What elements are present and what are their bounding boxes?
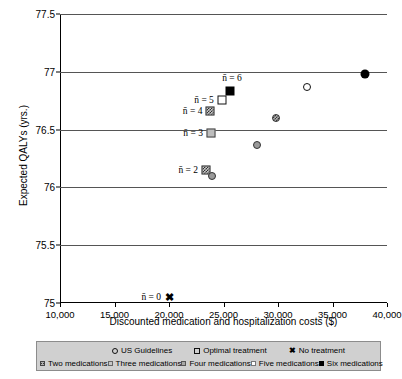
y-tick-label: 77 bbox=[44, 66, 55, 77]
y-tick-mark bbox=[56, 71, 60, 72]
data-point-optimal-top bbox=[361, 70, 370, 79]
legend-label: Two medications bbox=[48, 359, 108, 368]
x-tick-mark bbox=[387, 303, 388, 307]
chart-legend: US GuidelinesOptimal treatment✖No treatm… bbox=[36, 341, 381, 371]
data-point-guideline-mid bbox=[253, 141, 261, 149]
legend-label: Six medications bbox=[327, 359, 383, 368]
data-point-guideline-open bbox=[303, 83, 311, 91]
gridline-y bbox=[60, 245, 387, 246]
square-midgray-icon bbox=[181, 361, 186, 366]
y-tick-mark bbox=[56, 129, 60, 130]
point-annotation: n̄ = 5 bbox=[194, 95, 214, 105]
point-annotation: n̄ = 6 bbox=[222, 73, 242, 83]
legend-row-primary: US GuidelinesOptimal treatment✖No treatm… bbox=[37, 344, 380, 357]
data-point-n-bar-4 bbox=[206, 107, 215, 116]
y-axis-line bbox=[60, 14, 61, 303]
x-axis-title: Discounted medication and hospitalizatio… bbox=[60, 316, 387, 327]
point-annotation: n̄ = 4 bbox=[183, 106, 203, 116]
square-lightgray-icon bbox=[108, 361, 113, 366]
cross-icon: ✖ bbox=[289, 347, 296, 355]
legend-item-four-medications[interactable]: Four medications bbox=[181, 359, 250, 368]
point-annotation: n̄ = 3 bbox=[183, 128, 203, 138]
gridline-y bbox=[60, 187, 387, 188]
x-tick-mark bbox=[224, 303, 225, 307]
x-tick-mark bbox=[60, 303, 61, 307]
legend-item-six-medications[interactable]: Six medications bbox=[319, 359, 383, 368]
x-tick-mark bbox=[278, 303, 279, 307]
legend-label: Three medications bbox=[116, 359, 182, 368]
circle-open-icon bbox=[112, 348, 118, 354]
y-tick-label: 76 bbox=[44, 182, 55, 193]
data-point-n-bar-5 bbox=[217, 95, 226, 104]
gridline-y bbox=[60, 14, 387, 15]
data-point-guideline-low bbox=[208, 172, 216, 180]
square-black-icon bbox=[319, 361, 324, 366]
legend-item-us-guidelines[interactable]: US Guidelines bbox=[112, 346, 172, 355]
legend-item-two-medications[interactable]: Two medications bbox=[40, 359, 108, 368]
legend-item-optimal-treatment[interactable]: Optimal treatment bbox=[194, 346, 267, 355]
square-open-icon bbox=[194, 348, 200, 354]
legend-label: Optimal treatment bbox=[203, 346, 267, 355]
data-point-guideline-hatch bbox=[272, 114, 280, 122]
legend-label: Five medications bbox=[259, 359, 319, 368]
y-tick-mark bbox=[56, 187, 60, 188]
square-hatch-icon bbox=[40, 361, 45, 366]
legend-label: No treatment bbox=[299, 346, 345, 355]
y-tick-label: 77.5 bbox=[36, 9, 55, 20]
legend-label: US Guidelines bbox=[121, 346, 172, 355]
x-tick-mark bbox=[115, 303, 116, 307]
point-annotation: n̄ = 0 bbox=[141, 292, 161, 302]
y-tick-label: 75 bbox=[44, 298, 55, 309]
legend-item-no-treatment[interactable]: ✖No treatment bbox=[289, 346, 345, 355]
legend-item-three-medications[interactable]: Three medications bbox=[108, 359, 182, 368]
data-point-n-bar-3 bbox=[206, 129, 215, 138]
data-point-n-bar-6 bbox=[226, 87, 235, 96]
point-annotation: n̄ = 2 bbox=[178, 165, 198, 175]
y-axis-title: Expected QALYs (yrs.) bbox=[18, 41, 29, 271]
y-tick-mark bbox=[56, 245, 60, 246]
legend-label: Four medications bbox=[189, 359, 250, 368]
legend-item-five-medications[interactable]: Five medications bbox=[251, 359, 319, 368]
gridline-y bbox=[60, 130, 387, 131]
y-tick-label: 76.5 bbox=[36, 124, 55, 135]
legend-row-medications: Two medicationsThree medicationsFour med… bbox=[37, 357, 380, 370]
data-point-n-bar-0: ✖ bbox=[164, 292, 175, 303]
x-tick-mark bbox=[333, 303, 334, 307]
square-white-icon bbox=[251, 361, 256, 366]
x-tick-mark bbox=[169, 303, 170, 307]
y-tick-mark bbox=[56, 14, 60, 15]
y-tick-label: 75.5 bbox=[36, 240, 55, 251]
plot-area: 7575.57676.57777.510,00015,00020,00025,0… bbox=[60, 14, 387, 303]
